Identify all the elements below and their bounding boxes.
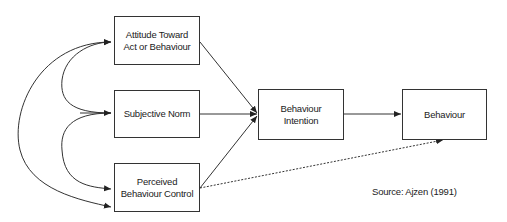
curve-norm-pbc xyxy=(62,113,111,189)
node-pbc-line1: Perceived xyxy=(121,176,194,188)
node-pbc-line2: Behaviour Control xyxy=(121,188,194,200)
node-behaviour: Behaviour xyxy=(402,89,487,140)
node-behaviour-label: Behaviour xyxy=(424,109,465,121)
curve-attitude-pbc xyxy=(18,42,111,207)
node-attitude-line2: Act or Behaviour xyxy=(123,41,190,53)
curve-norm-attitude xyxy=(62,42,111,113)
node-attitude: Attitude Toward Act or Behaviour xyxy=(114,16,200,65)
node-attitude-line1: Attitude Toward xyxy=(123,29,190,41)
edge-pbc-intention xyxy=(200,116,257,188)
curve-attitude-pbc-start xyxy=(20,42,111,150)
node-subjective-norm: Subjective Norm xyxy=(114,90,200,138)
node-behaviour-intention: Behaviour Intention xyxy=(258,89,344,140)
node-intention-line2: Intention xyxy=(281,115,322,127)
edge-attitude-intention xyxy=(200,42,257,113)
node-intention-line1: Behaviour xyxy=(281,103,322,115)
node-perceived-control: Perceived Behaviour Control xyxy=(114,163,200,212)
source-citation: Source: Ajzen (1991) xyxy=(372,186,457,197)
node-norm-label: Subjective Norm xyxy=(124,108,191,120)
edge-pbc-behaviour-dotted xyxy=(200,140,443,188)
